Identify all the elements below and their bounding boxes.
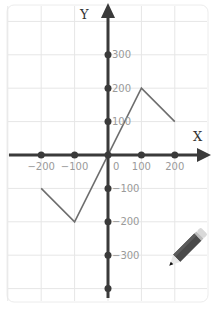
y-tick-label: −300 bbox=[112, 250, 139, 261]
y-tick-label: 300 bbox=[112, 49, 131, 60]
x-tick-label: 200 bbox=[165, 161, 184, 172]
y-tick-dot bbox=[105, 252, 112, 259]
x-tick-dot bbox=[71, 152, 78, 159]
y-tick-dot bbox=[105, 51, 112, 58]
x-tick-label: 0 bbox=[113, 161, 119, 172]
x-tick-label: 100 bbox=[132, 161, 151, 172]
x-axis-label: X bbox=[193, 129, 203, 144]
x-tick-label: −200 bbox=[27, 161, 54, 172]
y-tick-dot bbox=[105, 85, 112, 92]
y-tick-dot bbox=[105, 118, 112, 125]
y-tick-label: −200 bbox=[112, 216, 139, 227]
y-tick-label: −100 bbox=[112, 183, 139, 194]
x-tick-dot bbox=[171, 152, 178, 159]
y-tick-dot bbox=[105, 285, 112, 292]
y-axis-label: Y bbox=[79, 7, 89, 22]
y-tick-label: 200 bbox=[112, 83, 131, 94]
y-tick-label: 100 bbox=[112, 116, 131, 127]
y-tick-dot bbox=[105, 185, 112, 192]
y-tick-dot bbox=[105, 218, 112, 225]
x-tick-dot bbox=[138, 152, 145, 159]
x-tick-label: −100 bbox=[61, 161, 88, 172]
x-tick-dot bbox=[38, 152, 45, 159]
x-tick-dot bbox=[105, 152, 112, 159]
coordinate-plane: −200−1000100200300200100−100−200−300 X Y bbox=[0, 0, 213, 323]
